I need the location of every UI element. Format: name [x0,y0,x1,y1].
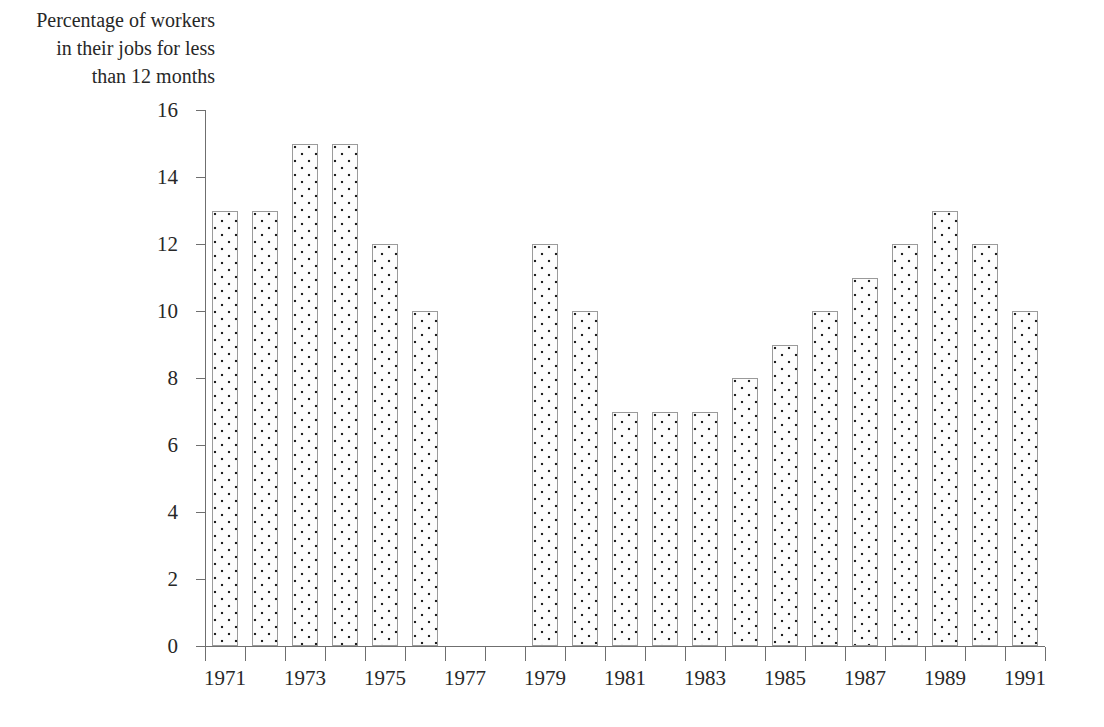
bar [652,412,678,647]
x-axis-tick-label: 1971 [204,668,246,689]
bar [772,345,798,647]
x-axis-tick [565,647,566,661]
bar [692,412,718,647]
y-axis-tick-label: 2 [168,569,179,590]
x-axis-tick [245,647,246,661]
y-axis-tick-label: 16 [157,100,178,121]
y-axis-tick: 12 [196,244,205,245]
x-axis-tick-label: 1973 [284,668,326,689]
y-axis-tick: 16 [196,110,205,111]
bar [1012,311,1038,646]
x-axis-tick [1005,647,1006,661]
y-axis-line [205,110,206,646]
x-axis-tick-label: 1985 [764,668,806,689]
bar [332,144,358,647]
x-axis-tick [405,647,406,661]
x-axis-tick [645,647,646,661]
x-axis-tick [845,647,846,661]
y-axis-tick: 6 [196,445,205,446]
bar [252,211,278,647]
bar [892,244,918,646]
bar [932,211,958,647]
y-axis-tick-label: 12 [157,234,178,255]
bar [372,244,398,646]
y-axis-tick: 8 [196,378,205,379]
y-axis-tick: 0 [196,646,205,647]
x-axis-tick [1045,647,1046,661]
y-axis-tick: 10 [196,311,205,312]
x-axis-tick [805,647,806,661]
x-axis-tick-label: 1989 [924,668,966,689]
y-axis-tick-label: 0 [168,636,179,657]
x-axis-tick [965,647,966,661]
y-axis-tick-label: 10 [157,301,178,322]
x-axis-tick [885,647,886,661]
x-axis-tick-label: 1987 [844,668,886,689]
y-axis-caption: Percentage of workers in their jobs for … [0,6,215,90]
x-axis-tick [325,647,326,661]
y-axis-tick: 14 [196,177,205,178]
x-axis-tick [485,647,486,661]
plot-area: 0246810121416 19711973197519771979198119… [205,110,1045,646]
x-axis-tick [765,647,766,661]
bar [292,144,318,647]
y-axis-tick-label: 14 [157,167,178,188]
x-axis-tick-label: 1979 [524,668,566,689]
x-axis-tick-label: 1983 [684,668,726,689]
bar [572,311,598,646]
y-axis-tick-label: 6 [168,435,179,456]
bar [612,412,638,647]
bar [532,244,558,646]
bar [812,311,838,646]
x-axis-tick [925,647,926,661]
x-axis-tick [205,647,206,661]
x-axis-tick-label: 1991 [1004,668,1046,689]
bar [212,211,238,647]
x-axis-tick [285,647,286,661]
x-axis-tick [525,647,526,661]
x-axis-tick [685,647,686,661]
bar [972,244,998,646]
bar [852,278,878,647]
bar [412,311,438,646]
x-axis-tick [445,647,446,661]
x-axis-tick [605,647,606,661]
x-axis-tick-label: 1977 [444,668,486,689]
x-axis-tick-label: 1975 [364,668,406,689]
bar [732,378,758,646]
x-axis-tick [725,647,726,661]
x-axis-tick [365,647,366,661]
y-axis-tick: 2 [196,579,205,580]
x-axis-tick-label: 1981 [604,668,646,689]
y-axis-tick-label: 4 [168,502,179,523]
y-axis-tick-label: 8 [168,368,179,389]
y-axis-tick: 4 [196,512,205,513]
